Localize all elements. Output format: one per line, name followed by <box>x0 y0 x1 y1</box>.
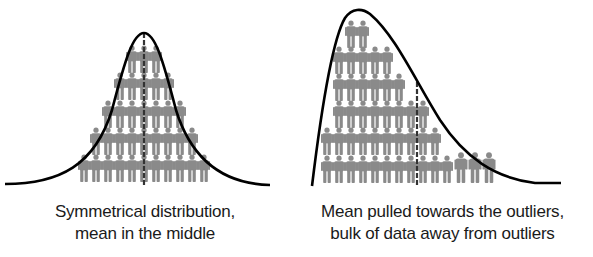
person-icon <box>393 128 405 155</box>
person-icon <box>126 73 138 100</box>
person-icon <box>381 156 393 183</box>
person-icon <box>114 101 126 128</box>
caption-skewed: Mean pulled towards the outliers, bulk o… <box>295 201 590 245</box>
panel-skewed <box>312 10 561 186</box>
person-icon <box>417 101 429 128</box>
caption-symmetric: Symmetrical distribution, mean in the mi… <box>10 201 280 245</box>
person-icon <box>321 156 333 183</box>
person-icon <box>321 128 333 155</box>
person-icon <box>357 74 369 101</box>
person-icon <box>381 74 393 101</box>
person-icon <box>381 101 393 128</box>
person-icon <box>393 74 405 101</box>
caption-skewed-line2: bulk of data away from outliers <box>295 223 590 245</box>
person-icon <box>345 128 357 155</box>
person-icon <box>393 101 405 128</box>
person-icon <box>102 155 114 182</box>
person-icon <box>405 128 417 155</box>
person-icon <box>393 156 405 183</box>
person-icon <box>417 156 429 183</box>
person-icon <box>357 101 369 128</box>
person-icon <box>369 156 381 183</box>
person-icon <box>126 128 138 155</box>
people-group-skewed <box>321 21 496 183</box>
person-icon <box>429 156 441 183</box>
person-icon <box>333 156 345 183</box>
caption-skewed-line1: Mean pulled towards the outliers, <box>295 201 590 223</box>
person-icon <box>150 101 162 128</box>
person-icon <box>369 74 381 101</box>
person-icon <box>345 74 357 101</box>
person-icon <box>357 128 369 155</box>
person-icon <box>150 46 162 73</box>
person-icon <box>126 155 138 182</box>
person-icon <box>162 155 174 182</box>
person-icon <box>150 128 162 155</box>
person-icon <box>162 101 174 128</box>
person-icon <box>357 156 369 183</box>
person-icon <box>126 46 138 73</box>
person-icon <box>441 156 453 183</box>
person-icon <box>174 155 186 182</box>
person-icon <box>162 128 174 155</box>
person-icon <box>114 155 126 182</box>
person-icon <box>405 101 417 128</box>
person-icon <box>369 47 381 74</box>
person-icon <box>114 128 126 155</box>
caption-symmetric-line2: mean in the middle <box>10 223 280 245</box>
person-icon <box>150 73 162 100</box>
person-icon <box>345 101 357 128</box>
person-icon <box>333 101 345 128</box>
person-icon <box>345 47 357 74</box>
person-icon <box>333 74 345 101</box>
person-icon <box>417 128 429 155</box>
person-icon <box>345 156 357 183</box>
person-icon <box>405 156 417 183</box>
person-icon <box>468 152 481 183</box>
person-icon <box>357 47 369 74</box>
panel-symmetric <box>5 33 270 186</box>
person-icon <box>381 47 393 74</box>
person-icon <box>186 155 198 182</box>
person-icon <box>429 128 441 155</box>
caption-symmetric-line1: Symmetrical distribution, <box>10 201 280 223</box>
person-icon <box>381 128 393 155</box>
person-icon <box>333 128 345 155</box>
person-icon <box>345 21 357 48</box>
person-icon <box>90 155 102 182</box>
person-icon <box>454 152 467 183</box>
person-icon <box>357 21 369 48</box>
person-icon <box>150 155 162 182</box>
person-icon <box>126 101 138 128</box>
person-icon <box>369 101 381 128</box>
person-icon <box>369 128 381 155</box>
